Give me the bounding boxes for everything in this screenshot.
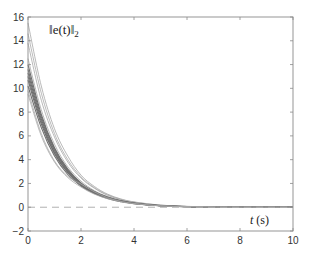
error-curve	[28, 65, 293, 208]
x-tick-label: 2	[78, 235, 84, 246]
error-curve	[28, 91, 293, 208]
error-curve	[28, 94, 293, 207]
error-curve	[28, 59, 293, 208]
y-tick-label: 10	[13, 83, 25, 94]
y-tick-label: 6	[18, 130, 24, 141]
y-tick-label: 12	[13, 59, 25, 70]
error-curve	[28, 23, 293, 207]
x-axis-label: t (s)	[250, 213, 269, 227]
y-tick-label: 8	[18, 107, 24, 118]
x-tick-label: 8	[237, 235, 243, 246]
y-tick-label: 4	[18, 154, 24, 165]
error-norm-curves	[28, 23, 293, 207]
axis-ticks	[28, 17, 293, 231]
y-tick-label: 0	[18, 202, 24, 213]
y-tick-label: 14	[13, 35, 25, 46]
y-axis-label: ‖e(t)‖2	[49, 22, 79, 39]
y-tick-label: 16	[13, 12, 25, 23]
chart: 0246810−20246810121416 ‖e(t)‖2 t (s)	[0, 0, 312, 260]
error-curve	[28, 76, 293, 207]
x-tick-label: 0	[25, 235, 31, 246]
x-tick-label: 4	[131, 235, 137, 246]
x-tick-label: 6	[184, 235, 190, 246]
x-tick-label: 10	[287, 235, 299, 246]
error-curve	[28, 69, 293, 207]
error-curve	[28, 73, 293, 207]
plot-frame	[28, 17, 293, 231]
tick-labels: 0246810−20246810121416	[13, 12, 299, 247]
error-curve	[28, 86, 293, 207]
error-curve	[28, 80, 293, 207]
y-tick-label: 2	[18, 178, 24, 189]
error-curve	[28, 34, 293, 208]
error-curve	[28, 43, 293, 207]
y-tick-label: −2	[13, 226, 25, 237]
